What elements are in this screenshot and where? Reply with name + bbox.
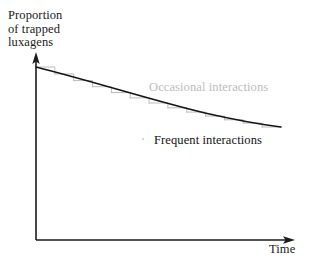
decay-figure: Proportion of trapped luxagens Time Occa… [0,0,313,269]
y-axis-label: Proportion of trapped luxagens [8,9,62,50]
y-axis-label-line-2: of trapped [8,23,62,37]
frequent-interactions-label: Frequent interactions [154,133,262,148]
stray-mark [142,138,144,140]
frequent-interactions-curve [36,67,281,127]
occasional-interactions-staircase [36,67,281,127]
y-axis-label-line-1: Proportion [8,9,62,23]
y-axis-label-line-3: luxagens [8,36,62,50]
occasional-interactions-label: Occasional interactions [149,80,268,95]
x-axis-label: Time [269,243,295,257]
staircase-path [36,67,281,127]
